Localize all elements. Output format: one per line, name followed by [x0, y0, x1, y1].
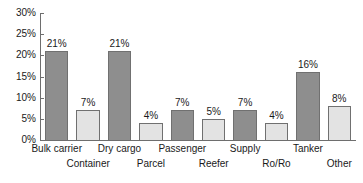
bar-group: 4% [265, 13, 288, 140]
bar-value-label: 7% [81, 97, 95, 108]
bar [171, 110, 194, 140]
bar-group: 7% [76, 13, 99, 140]
bar-value-label: 16% [298, 59, 318, 70]
y-axis-tick-label: 5% [22, 114, 40, 124]
bar-group: 4% [139, 13, 162, 140]
bar [233, 110, 256, 140]
bar-group: 7% [171, 13, 194, 140]
x-axis-category-label: Supply [230, 143, 261, 154]
x-axis-category-label: Reefer [199, 158, 229, 169]
y-axis-tick-label: 25% [16, 29, 40, 39]
bar [76, 110, 99, 140]
bar [296, 72, 319, 140]
x-axis-category-label: Ro/Ro [262, 158, 290, 169]
y-axis-tick-mark [40, 140, 44, 141]
y-axis-tick-label: 30% [16, 8, 40, 18]
bar-value-label: 5% [206, 106, 220, 117]
bar-group: 8% [328, 13, 351, 140]
y-axis-tick-label: 20% [16, 50, 40, 60]
plot-area: 21%7%21%4%7%5%7%4%16%8% [41, 13, 355, 140]
bar-group: 21% [108, 13, 131, 140]
bar-value-label: 8% [332, 93, 346, 104]
bar-value-label: 7% [238, 97, 252, 108]
y-axis-tick-label: 15% [16, 72, 40, 82]
bar-value-label: 4% [269, 110, 283, 121]
bar [108, 51, 131, 140]
bar-group: 5% [202, 13, 225, 140]
bar-value-label: 4% [144, 110, 158, 121]
x-axis-category-label: Tanker [293, 143, 323, 154]
bar [328, 106, 351, 140]
bar-group: 7% [233, 13, 256, 140]
bar-chart: 30%25%20%15%10%5%0% 21%7%21%4%7%5%7%4%16… [0, 0, 363, 183]
bar-value-label: 21% [109, 38, 129, 49]
bar [265, 123, 288, 140]
bar-value-label: 7% [175, 97, 189, 108]
x-axis-category-label: Dry cargo [98, 143, 141, 154]
x-axis-category-label: Passenger [158, 143, 206, 154]
x-axis-line [40, 140, 356, 141]
x-axis-category-label: Container [66, 158, 109, 169]
x-axis-category-label: Other [327, 158, 352, 169]
bar [45, 51, 68, 140]
x-axis-category-label: Parcel [137, 158, 165, 169]
bar-value-label: 21% [47, 38, 67, 49]
bar-group: 16% [296, 13, 319, 140]
bar [139, 123, 162, 140]
bar [202, 119, 225, 140]
y-axis-tick-label: 10% [16, 93, 40, 103]
bar-group: 21% [45, 13, 68, 140]
x-axis-category-label: Bulk carrier [31, 143, 82, 154]
